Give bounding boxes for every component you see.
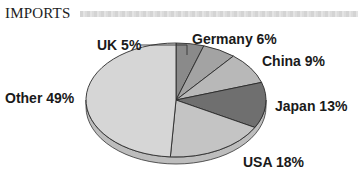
pie-slice-other xyxy=(86,43,176,157)
pie-chart: UK 5%Germany 6%China 9%Japan 13%USA 18%O… xyxy=(0,0,363,175)
label-germany: Germany 6% xyxy=(192,31,277,47)
label-other: Other 49% xyxy=(5,90,75,106)
label-japan: Japan 13% xyxy=(275,98,348,114)
label-uk: UK 5% xyxy=(97,37,142,53)
label-usa: USA 18% xyxy=(243,154,305,170)
label-china: China 9% xyxy=(262,53,326,69)
